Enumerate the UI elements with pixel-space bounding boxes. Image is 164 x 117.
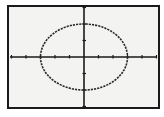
- graph-plot: [0, 0, 164, 117]
- axes: [10, 8, 157, 108]
